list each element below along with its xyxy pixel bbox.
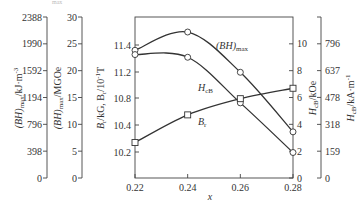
circle-marker xyxy=(290,129,296,135)
magnet-properties-chart: max 23881990159211947963980 (BH)max/kJ·m… xyxy=(0,0,364,208)
axis-hcb-koe-ticks: 1086420 xyxy=(289,38,307,183)
tick-label: 11.2 xyxy=(114,67,131,78)
tick-label: 1990 xyxy=(22,38,42,49)
tick-label: 0.28 xyxy=(284,182,302,193)
tick-label: 0.26 xyxy=(232,182,250,193)
circle-marker xyxy=(290,150,296,156)
tick-label: 0.24 xyxy=(179,182,197,193)
x-axis-title: x xyxy=(207,191,213,202)
tick-label: 2 xyxy=(297,146,302,157)
tick-label: 5 xyxy=(72,146,77,157)
circle-marker xyxy=(132,52,138,58)
tick-label: 318 xyxy=(325,119,340,130)
axis-bhmax-kj: 23881990159211947963980 (BH)max/kJ·m-3 xyxy=(12,12,47,184)
axis-title-hcb-koe: HcB/kOe xyxy=(307,80,320,116)
circle-marker xyxy=(185,29,191,35)
circle-marker xyxy=(185,54,191,60)
tick-label: 0 xyxy=(72,173,77,184)
tick-label: 0.22 xyxy=(126,182,144,193)
axis-title-hcb-ka: HcB/kA·m-1 xyxy=(344,74,358,122)
data-series xyxy=(132,29,296,155)
circle-marker xyxy=(237,69,243,75)
tick-label: 11.4 xyxy=(114,40,131,51)
tick-label: 20 xyxy=(67,65,77,76)
square-marker xyxy=(290,85,296,91)
curve-br xyxy=(135,88,293,142)
tick-label: 8 xyxy=(297,65,302,76)
tick-label: 4 xyxy=(297,119,302,130)
tick-label: 10.8 xyxy=(114,93,132,104)
square-marker xyxy=(185,112,191,118)
label-br: Br xyxy=(198,116,207,129)
tick-label: 10 xyxy=(67,119,77,130)
axis-title-br: Br/kG, Br/10-1T xyxy=(94,67,108,129)
label-bhmax: (BH)max xyxy=(216,40,249,53)
tick-label: 10.2 xyxy=(114,147,132,158)
curve-bhmax xyxy=(135,32,293,132)
axis-bhmax-mgoe: 302520151050 (BH)max/MGOe xyxy=(52,12,82,184)
tick-label: 398 xyxy=(27,146,42,157)
axis-hcb-ka: 7966374783181590 HcB/kA·m-1 xyxy=(317,17,358,184)
tick-label: 10 xyxy=(297,38,307,49)
tick-label: 159 xyxy=(325,146,340,157)
stray-top-text: max xyxy=(52,0,62,5)
tick-label: 637 xyxy=(325,65,340,76)
square-marker xyxy=(237,96,243,102)
tick-label: 6 xyxy=(297,92,302,103)
tick-label: 2388 xyxy=(22,12,42,23)
tick-label: 25 xyxy=(67,38,77,49)
axis-title-bhmax-kj: (BH)max/kJ·m-3 xyxy=(12,67,26,128)
plot-frame xyxy=(135,17,293,178)
tick-label: 0 xyxy=(37,173,42,184)
label-hcb: HcB xyxy=(197,82,213,95)
tick-label: 796 xyxy=(27,119,42,130)
tick-label: 10.4 xyxy=(114,120,132,131)
axis-title-bhmax-mgoe: (BH)max/MGOe xyxy=(52,66,65,129)
square-marker xyxy=(132,140,138,146)
tick-label: 15 xyxy=(67,92,77,103)
curve-hcb xyxy=(135,53,293,153)
x-axis-ticks: 0.220.240.260.28 xyxy=(126,174,302,193)
tick-label: 478 xyxy=(325,92,340,103)
tick-label: 796 xyxy=(325,38,340,49)
tick-label: 30 xyxy=(67,12,77,23)
tick-label: 1592 xyxy=(22,65,42,76)
tick-label: 0 xyxy=(325,173,330,184)
